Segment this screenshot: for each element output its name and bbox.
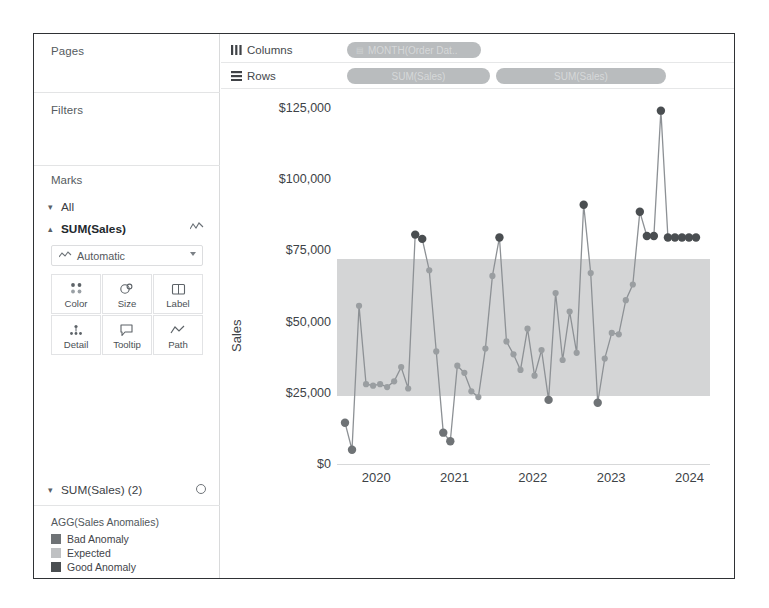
rows-icon — [229, 71, 244, 81]
data-point[interactable] — [426, 267, 432, 273]
marks-sum-sales-2-label: SUM(Sales) (2) — [61, 483, 142, 497]
detail-icon — [68, 320, 84, 339]
data-point[interactable] — [630, 281, 636, 287]
mark-type-dropdown[interactable]: Automatic — [51, 245, 203, 266]
y-tick-label: $50,000 — [257, 315, 331, 329]
data-point[interactable] — [616, 331, 622, 337]
data-point[interactable] — [391, 378, 397, 384]
data-point[interactable] — [560, 357, 566, 363]
marks-sum-sales-2-row[interactable]: ▾ SUM(Sales) (2) — [48, 481, 208, 499]
label-button[interactable]: Label — [153, 274, 203, 314]
tooltip-button[interactable]: Tooltip — [102, 315, 152, 355]
data-point[interactable] — [531, 373, 537, 379]
size-icon — [119, 279, 135, 298]
data-point[interactable] — [579, 200, 587, 208]
data-point[interactable] — [475, 394, 481, 400]
data-point[interactable] — [609, 330, 615, 336]
x-tick-label: 2022 — [518, 470, 547, 485]
data-point[interactable] — [370, 383, 376, 389]
data-point[interactable] — [356, 303, 362, 309]
data-point[interactable] — [567, 308, 573, 314]
legend-item[interactable]: Good Anomaly — [51, 560, 159, 574]
data-point[interactable] — [482, 345, 488, 351]
data-point[interactable] — [341, 418, 349, 426]
rows-shelf-label: Rows — [247, 70, 276, 82]
data-point[interactable] — [433, 348, 439, 354]
data-point[interactable] — [524, 326, 530, 332]
data-point[interactable] — [636, 208, 644, 216]
chevron-down-icon — [190, 252, 196, 256]
chevron-up-icon: ▴ — [48, 225, 61, 234]
y-tick-label: $125,000 — [257, 101, 331, 115]
columns-icon — [229, 45, 244, 55]
circle-mark-icon — [196, 484, 206, 494]
data-point[interactable] — [411, 230, 419, 238]
x-axis-ticks: 20202021202220232024 — [337, 470, 710, 494]
pill-sum-sales-1[interactable]: SUM(Sales) — [347, 68, 490, 84]
pages-card-title: Pages — [34, 34, 220, 57]
tooltip-button-label: Tooltip — [113, 339, 141, 351]
marks-sum-sales-row[interactable]: ▴ SUM(Sales) — [48, 219, 208, 239]
filters-card[interactable]: Filters — [34, 93, 220, 166]
marks-all-row[interactable]: ▾ All — [48, 197, 208, 217]
data-point[interactable] — [503, 338, 509, 344]
detail-button[interactable]: Detail — [51, 315, 101, 355]
legend-swatch — [51, 562, 61, 572]
pill-sum-sales-2[interactable]: SUM(Sales) — [496, 68, 666, 84]
data-point[interactable] — [418, 235, 426, 243]
legend-item[interactable]: Expected — [51, 546, 159, 560]
legend-item-label: Bad Anomaly — [67, 533, 129, 545]
data-point[interactable] — [553, 290, 559, 296]
data-point[interactable] — [594, 399, 602, 407]
data-point[interactable] — [384, 384, 390, 390]
legend-item[interactable]: Bad Anomaly — [51, 532, 159, 546]
size-button[interactable]: Size — [102, 274, 152, 314]
data-point[interactable] — [446, 437, 454, 445]
color-legend: AGG(Sales Anomalies) Bad Anomaly Expecte… — [51, 516, 159, 574]
data-point[interactable] — [489, 273, 495, 279]
data-point[interactable] — [650, 232, 658, 240]
data-point[interactable] — [439, 428, 447, 436]
chevron-down-icon: ▾ — [48, 203, 61, 212]
left-sidebar: Pages Filters Marks ▾ All ▴ SUM(Sales) — [34, 34, 220, 578]
data-point[interactable] — [495, 233, 503, 241]
data-point[interactable] — [405, 385, 411, 391]
data-point[interactable] — [377, 381, 383, 387]
data-point[interactable] — [461, 370, 467, 376]
data-point[interactable] — [398, 364, 404, 370]
data-point[interactable] — [602, 355, 608, 361]
data-point[interactable] — [517, 367, 523, 373]
legend-swatch — [51, 534, 61, 544]
data-point[interactable] — [574, 350, 580, 356]
data-point[interactable] — [544, 396, 552, 404]
data-point[interactable] — [363, 381, 369, 387]
data-point[interactable] — [468, 388, 474, 394]
path-button[interactable]: Path — [153, 315, 203, 355]
sales-anomaly-chart[interactable]: Sales $0$25,000$50,000$75,000$100,000$12… — [221, 90, 734, 570]
pages-card[interactable]: Pages — [34, 34, 220, 93]
data-point[interactable] — [657, 106, 665, 114]
legend-item-label: Expected — [67, 547, 111, 559]
data-point[interactable] — [454, 363, 460, 369]
columns-shelf-label: Columns — [247, 44, 292, 56]
legend-swatch — [51, 548, 61, 558]
data-point[interactable] — [510, 351, 516, 357]
data-point[interactable] — [348, 446, 356, 454]
sidebar-divider — [34, 505, 220, 506]
data-point[interactable] — [538, 347, 544, 353]
line-chart-icon — [190, 221, 204, 233]
filters-card-title: Filters — [34, 93, 220, 116]
pill-month-order-date[interactable]: ▤ MONTH(Order Dat.. — [347, 42, 481, 58]
data-point[interactable] — [692, 233, 700, 241]
x-tick-label: 2020 — [362, 470, 391, 485]
plot-area[interactable] — [337, 90, 710, 490]
marks-sum-sales-label: SUM(Sales) — [61, 222, 126, 236]
data-point[interactable] — [623, 297, 629, 303]
series-svg — [337, 90, 710, 490]
color-button[interactable]: Color — [51, 274, 101, 314]
x-tick-label: 2021 — [440, 470, 469, 485]
data-point[interactable] — [588, 270, 594, 276]
line-mark-icon — [59, 250, 72, 261]
chevron-down-icon: ▾ — [48, 486, 61, 495]
label-button-label: Label — [166, 298, 189, 310]
